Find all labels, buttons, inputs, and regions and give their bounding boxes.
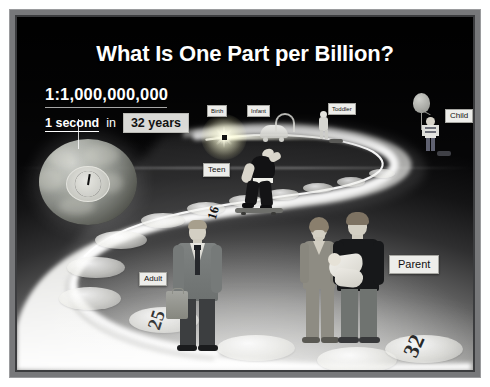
poster-root: 16 25 32 What Is One Part [0,0,490,387]
clock-dial [66,166,110,202]
stage-label-teen[interactable]: Teen [203,163,230,177]
illustration-stage: 16 25 32 What Is One Part [17,17,473,370]
stage-label-child[interactable]: Child [445,109,473,123]
ratio-connector: in [106,116,116,130]
ratio-numerator: 1 second [45,116,99,132]
ratio-denominator: 32 years [123,113,189,133]
poster-frame-inner: 16 25 32 What Is One Part [15,15,475,372]
ratio-leader-line [78,119,79,149]
stage-label-infant[interactable]: Infant [247,105,270,117]
ratio-value: 1:1,000,000,000 [45,85,215,104]
globe-clock-graphic [39,139,137,225]
ratio-equivalence: 1 second in 32 years [45,113,215,133]
starburst-icon [209,122,239,152]
stage-label-parent[interactable]: Parent [389,255,439,274]
ratio-divider [45,107,167,108]
ratio-block: 1:1,000,000,000 1 second in 32 years [45,85,215,133]
page-title: What Is One Part per Billion? [17,41,473,67]
briefcase-icon [166,291,188,319]
stage-label-toddler[interactable]: Toddler [328,103,356,115]
poster-frame: 16 25 32 What Is One Part [9,9,481,378]
stage-label-adult[interactable]: Adult [139,272,167,286]
stage-label-birth[interactable]: Birth [207,105,227,117]
